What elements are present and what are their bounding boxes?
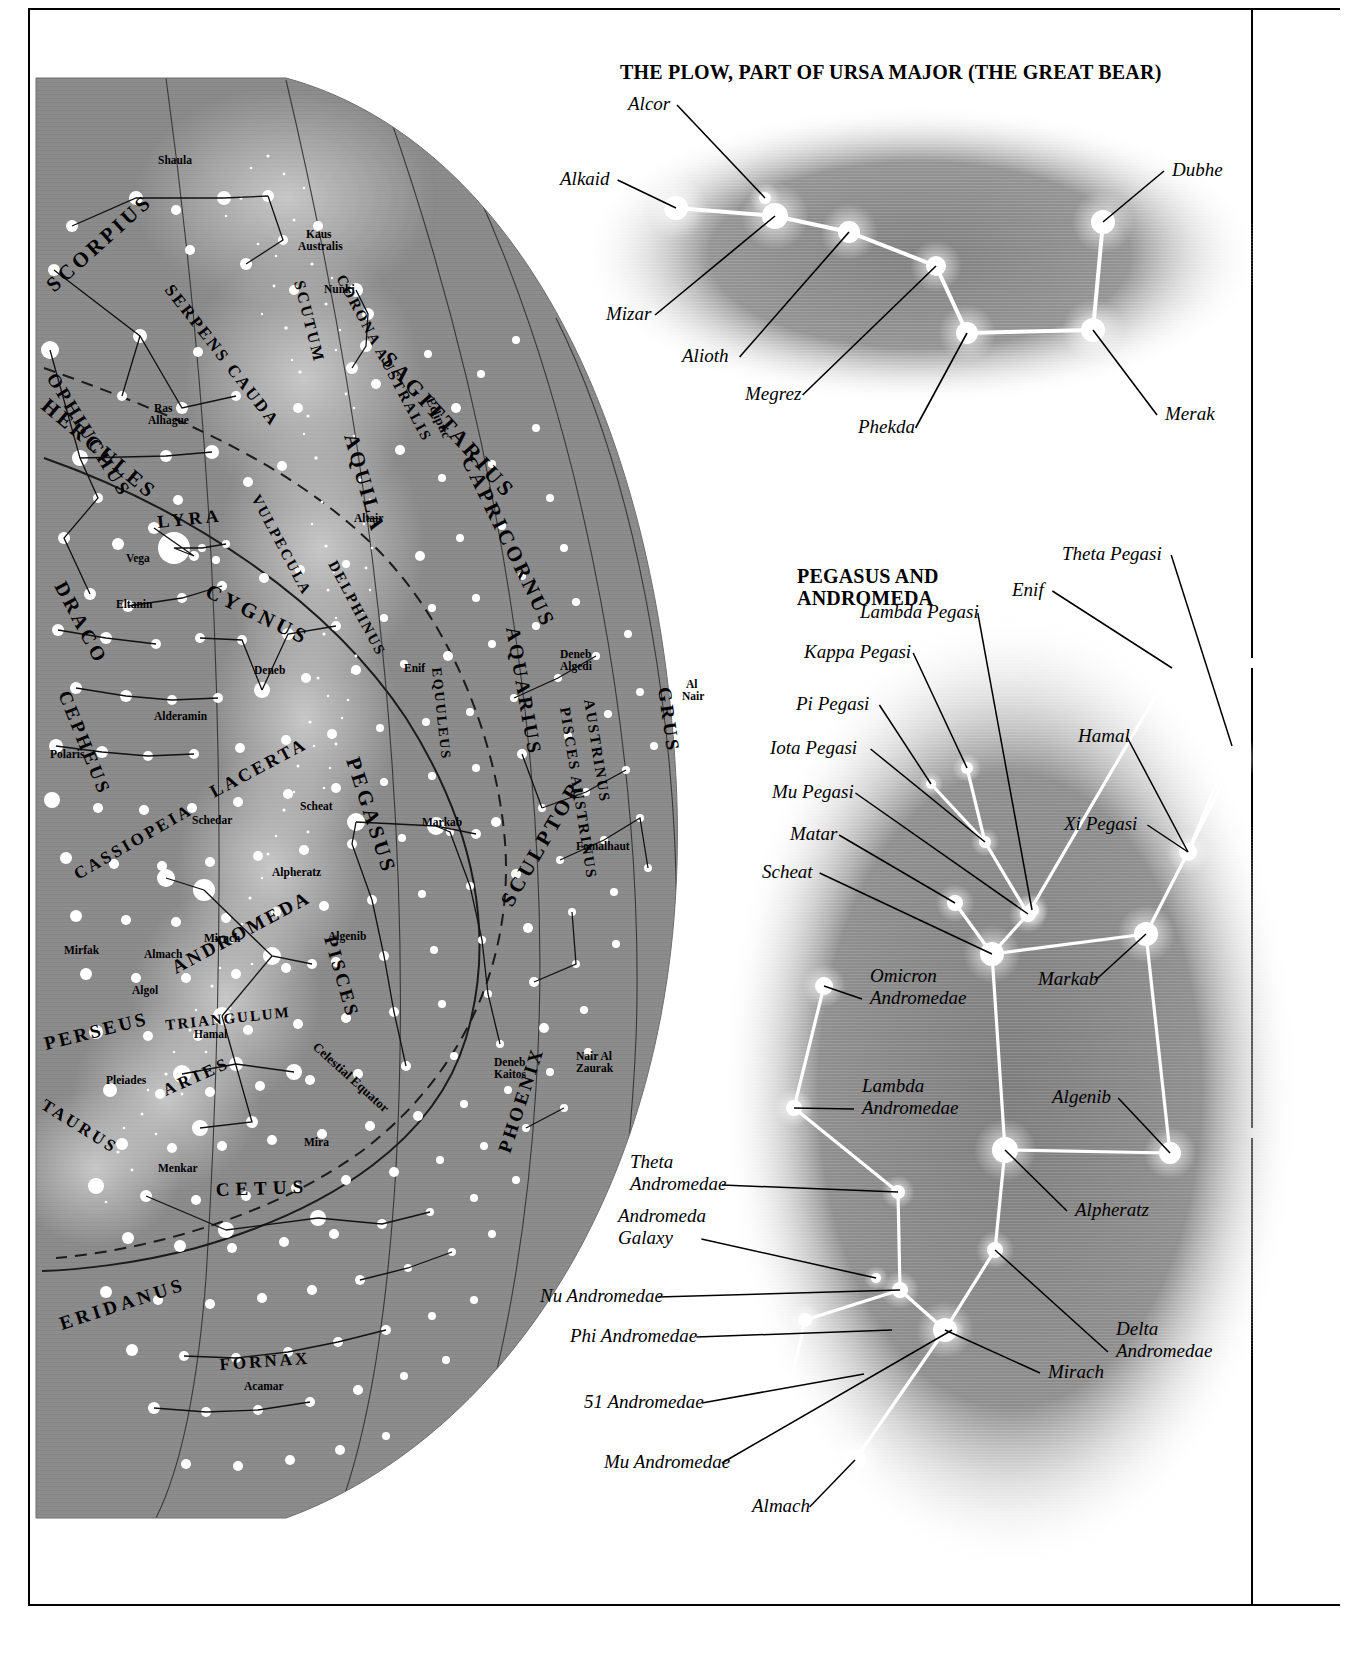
label-lambda-pegasi: Lambda Pegasi: [859, 601, 979, 622]
starlabel-shaula: Shaula: [158, 154, 192, 166]
label-mu-pegasi: Mu Pegasi: [771, 781, 854, 802]
starlabel-deneb: Deneb: [254, 664, 285, 676]
label-scheat: Scheat: [762, 861, 813, 882]
starlabel-hamal: Hamal: [194, 1028, 227, 1040]
starlabel-ras-alhague: Ras: [154, 402, 173, 414]
starlabel-deneb-kaitos: Deneb: [494, 1056, 525, 1068]
label-alpheratz: Alpheratz: [1073, 1199, 1149, 1220]
starlabel-eltanin: Eltanin: [116, 598, 153, 610]
plow-diagram: AlcorAlkaidMizarAliothMegrezPhekdaDubheM…: [560, 80, 1260, 460]
star-phi-and: [798, 1313, 812, 1327]
star-hamal: [1225, 748, 1245, 768]
starlabel-nunki: Nunki: [324, 283, 355, 295]
label-iota-pegasi: Iota Pegasi: [769, 737, 857, 758]
label-markab: Markab: [1037, 968, 1098, 989]
const-cetus: CETUS: [215, 1176, 309, 1200]
label-theta-pegasi: Theta Pegasi: [1062, 543, 1162, 564]
label-nu-andromedae: Nu Andromedae: [539, 1285, 663, 1306]
starlabel-acamar: Acamar: [244, 1380, 284, 1392]
starlabel-alderamin: Alderamin: [154, 710, 208, 722]
label-hamal: Hamal: [1077, 725, 1130, 746]
star-chart-page: SCORPIUS OPHIUCHUS SERPENS CAUDA CORONA …: [0, 0, 1367, 1653]
starlabel-altair: Altair: [354, 512, 383, 524]
label-andromeda-galaxy: AndromedaGalaxy: [616, 1205, 706, 1248]
label-almach: Almach: [750, 1495, 810, 1516]
starlabel-schedar: Schedar: [192, 814, 232, 826]
page-border-top: [28, 8, 1340, 10]
label-matar: Matar: [789, 823, 838, 844]
starlabel-mirach: Mirach: [204, 932, 241, 944]
starlabel-scheat: Scheat: [300, 800, 333, 812]
starlabel-alpheratz: Alpheratz: [272, 866, 321, 879]
label-Merak: Merak: [1164, 403, 1215, 424]
starlabel-menkar: Menkar: [158, 1162, 198, 1174]
starlabel-mirfak: Mirfak: [64, 944, 100, 956]
page-border-left: [28, 8, 30, 1606]
starlabel-algenib: Algenib: [328, 930, 366, 943]
label-mu-andromedae: Mu Andromedae: [603, 1451, 730, 1472]
label-enif: Enif: [1011, 579, 1046, 600]
label-theta-andromedae: ThetaAndromedae: [628, 1151, 726, 1194]
leader-lambda-andromedae: [794, 1108, 854, 1109]
starlabel-ras-alhague2: Alhague: [148, 414, 189, 427]
starlabel-mira: Mira: [304, 1136, 329, 1148]
label-Alcor: Alcor: [626, 93, 671, 114]
label-mirach: Mirach: [1047, 1361, 1104, 1382]
starlabel-polaris: Polaris: [50, 748, 85, 760]
starlabel-almach: Almach: [144, 948, 183, 960]
starlabel-deneb-kaitos2: Kaitos: [494, 1068, 526, 1080]
label-Alkaid: Alkaid: [558, 168, 610, 189]
starlabel-vega: Vega: [126, 552, 150, 565]
label-phi-andromedae: Phi Andromedae: [569, 1325, 697, 1346]
starlabel-enif: Enif: [404, 662, 425, 674]
label-Dubhe: Dubhe: [1171, 159, 1223, 180]
label-Alioth: Alioth: [680, 345, 728, 366]
starlabel-markab: Markab: [422, 816, 462, 828]
pegasus-andromeda-diagram: Theta PegasiEnifLambda PegasiKappa Pegas…: [540, 530, 1300, 1580]
label-algenib: Algenib: [1050, 1086, 1111, 1107]
label-51-andromedae: 51 Andromedae: [584, 1391, 704, 1412]
label-Megrez: Megrez: [744, 383, 802, 404]
label-xi-pegasi: Xi Pegasi: [1063, 813, 1137, 834]
starlabel-algol: Algol: [132, 984, 158, 997]
starlabel-pleiades: Pleiades: [106, 1074, 147, 1086]
label-Phekda: Phekda: [857, 416, 915, 437]
label-pi-pegasi: Pi Pegasi: [795, 693, 869, 714]
label-Mizar: Mizar: [605, 303, 652, 324]
page-border-bottom: [28, 1604, 1340, 1606]
starlabel-kaus-australis: Kaus: [306, 228, 332, 240]
starlabel-kaus-australis2: Australis: [298, 240, 343, 252]
label-kappa-pegasi: Kappa Pegasi: [803, 641, 911, 662]
